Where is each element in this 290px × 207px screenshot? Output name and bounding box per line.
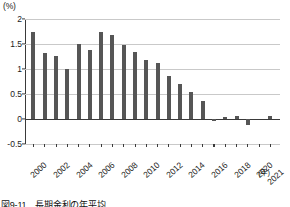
x-axis-tick-label: 2014 [187,160,207,180]
y-axis-tick-label: 1.5 [10,39,22,49]
x-axis-tick-mark [213,144,214,147]
x-axis-tick-mark [44,144,45,147]
x-axis-tick-mark [89,144,90,147]
x-axis-tick-label: 2018 [232,160,252,180]
bar [88,50,92,119]
bar [268,116,272,119]
x-axis-tick-label: 2004 [74,160,94,180]
x-axis-tick-mark [135,144,136,147]
x-axis-tick-mark [202,144,203,147]
bar [167,76,171,119]
bar [212,119,216,121]
gridline [25,144,280,145]
bar [189,92,193,119]
chart-figure: (%) 21.510.50-0.5 2000200220042006200820… [0,0,290,207]
x-axis-tick-mark [67,144,68,147]
bar [223,117,227,120]
x-axis-tick-mark [180,144,181,147]
x-axis-tick-label: 2006 [96,160,116,180]
x-axis-tick-mark [270,144,271,147]
x-axis-tick-mark [146,144,147,147]
bar [43,53,47,120]
y-axis-tick-label: -0.5 [7,139,22,149]
bar [133,52,137,120]
x-axis-tick-mark [112,144,113,147]
x-axis-tick-mark [236,144,237,147]
bar [246,119,250,125]
x-axis-tick-mark [157,144,158,147]
x-axis-tick-label: 2016 [209,160,229,180]
bar [156,63,160,119]
bar [178,84,182,120]
x-axis-tick-mark [56,144,57,147]
x-axis-tick-label: 2002 [51,160,71,180]
bar [77,44,81,120]
x-axis-tick-label: 2008 [119,160,139,180]
bar [99,32,103,119]
bar [31,32,35,120]
plot-area [25,19,280,144]
x-axis-tick-mark [78,144,79,147]
bar [122,45,126,120]
x-axis-tick-mark [123,144,124,147]
figure-caption: 図9-11 長期金利の年平均 [1,198,106,207]
bar-series [25,19,280,144]
x-axis-tick-mark [101,144,102,147]
figure-caption-text: 図9-11 長期金利の年平均 [1,200,106,207]
x-axis-tick-mark [191,144,192,147]
bar [54,56,58,120]
x-axis-tick-mark [33,144,34,147]
bar [201,101,205,119]
x-axis-tick-mark [225,144,226,147]
x-axis-tick-label: 2010 [141,160,161,180]
y-axis-tick-label: 0.5 [10,89,22,99]
x-axis-tick-label: 2012 [164,160,184,180]
x-axis-unit-label: (年) [258,166,270,177]
x-axis-tick-mark [247,144,248,147]
x-axis-tick-mark [168,144,169,147]
bar [110,35,114,119]
x-axis-tick-mark [259,144,260,147]
y-axis-unit-label: (%) [3,1,16,11]
y-axis-tick-labels: 21.510.50-0.5 [0,19,22,144]
bar [235,116,239,120]
bar [144,60,148,119]
x-axis-tick-label: 2000 [29,160,49,180]
bar [65,69,69,119]
